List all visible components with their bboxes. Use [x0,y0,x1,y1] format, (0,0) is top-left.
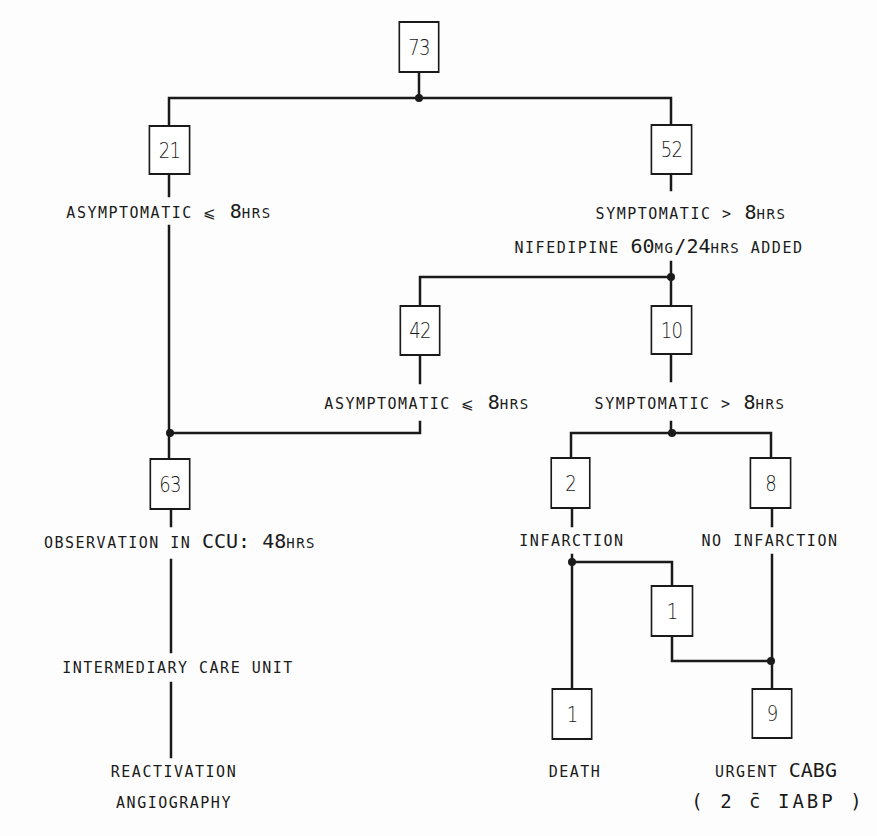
node-count: 1 [567,702,578,727]
flowchart-canvas: 73 21 52 42 10 63 2 8 1 1 9 ASYMPTOMATIC… [0,0,877,836]
label-asymptomatic-first: ASYMPTOMATIC ⩽ 8HRS [64,201,273,223]
label-symptomatic-first: SYMPTOMATIC > 8HRS [594,202,789,224]
junction-dot [166,429,174,437]
node-observation: 63 [150,458,191,510]
label-nifedipine: NIFEDIPINE 60MG/24HRS ADDED [513,236,806,258]
label-death: DEATH [547,762,604,782]
label-symptomatic-second: SYMPTOMATIC > 8HRS [593,392,788,414]
node-count: 2 [565,471,576,496]
node-count: 52 [661,137,682,162]
node-urgent-cabg: 9 [752,688,793,739]
label-asymptomatic-second: ASYMPTOMATIC ⩽ 8HRS [322,392,531,414]
label-infarction: INFARCTION [517,531,626,551]
node-count: 9 [767,701,778,726]
node-count: 8 [765,471,776,496]
node-count: 42 [409,318,430,343]
label-intermediary-care-unit: INTERMEDIARY CARE UNIT [60,658,296,678]
node-symptomatic-first: 52 [651,124,693,175]
junction-dot [568,558,576,566]
node-death: 1 [552,688,593,740]
label-angiography: ANGIOGRAPHY [114,793,234,813]
junction-dot [668,429,676,437]
node-root: 73 [399,21,440,73]
node-asymptomatic-second: 42 [400,305,441,356]
junction-dot [667,273,675,281]
node-asymptomatic-first: 21 [149,125,191,175]
node-infarction-to-cabg: 1 [651,585,694,637]
node-count: 73 [408,35,429,60]
node-count: 21 [159,138,180,163]
label-observation-ccu: OBSERVATION IN CCU: 48HRS [42,531,318,553]
node-no-infarction: 8 [750,457,792,509]
junction-dot [767,657,775,665]
label-iabp: ( 2 c̄ IABP ) [689,791,866,811]
label-reactivation: REACTIVATION [109,762,239,782]
label-urgent-cabg: URGENT CABG [713,760,839,782]
junction-dot [415,94,423,102]
node-count: 10 [661,318,682,343]
node-count: 1 [667,599,678,624]
node-count: 63 [159,472,180,497]
node-symptomatic-second: 10 [651,305,693,355]
node-infarction: 2 [550,457,590,509]
label-no-infarction: NO INFARCTION [700,531,841,551]
connector-lines [0,0,877,836]
